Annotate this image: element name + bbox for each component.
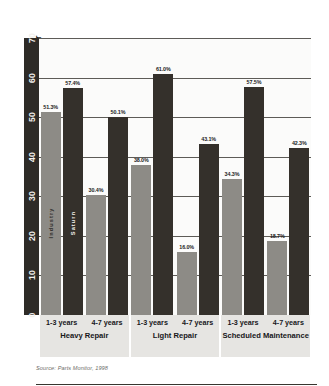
y-axis-tick-10: 10 (25, 268, 39, 283)
y-axis-tick-70: 70 (25, 31, 39, 46)
bar-value-label-industry-0: 51.3% (39, 104, 66, 110)
y-axis-tick-40: 40 (25, 149, 39, 164)
bar-series-container: 51.3%57.4%IndustrySaturn30.4%50.1%38.0%6… (39, 38, 311, 315)
bar-industry-2 (131, 165, 151, 315)
bar-value-label-industry-3: 16.0% (172, 244, 202, 250)
bar-value-label-industry-2: 38.0% (126, 157, 156, 163)
bar-industry-3 (177, 252, 197, 315)
plot-area: 51.3%57.4%IndustrySaturn30.4%50.1%38.0%6… (39, 38, 311, 315)
group-label-1: Light Repair (130, 330, 221, 354)
source-note: Source: Parts Monitor, 1998 (36, 365, 108, 371)
period-label-1-0: 1-3 years (130, 317, 175, 328)
bar-value-label-saturn-3: 43.1% (194, 136, 224, 142)
top-caption (47, 1, 137, 7)
y-axis-tick-0: 0 (25, 308, 39, 323)
bar-saturn-5 (289, 148, 309, 315)
bar-value-label-saturn-4: 57.5% (239, 79, 269, 85)
group-label-0: Heavy Repair (39, 330, 130, 354)
y-axis-tick-50: 50 (25, 110, 39, 125)
period-label-1-1: 4-7 years (175, 317, 220, 328)
series-label-saturn: Saturn (70, 193, 76, 253)
period-label-0-0: 1-3 years (39, 317, 84, 328)
bar-saturn-1 (108, 117, 128, 315)
bar-value-label-industry-5: 18.7% (262, 233, 292, 239)
bar-value-label-saturn-0: 57.4% (58, 80, 88, 86)
bar-value-label-industry-1: 30.4% (81, 187, 111, 193)
period-label-0-1: 4-7 years (84, 317, 129, 328)
bar-value-label-industry-4: 34.3% (217, 171, 247, 177)
bar-value-label-saturn-5: 42.3% (284, 140, 311, 146)
y-axis-band: 010203040506070 (24, 38, 39, 315)
y-axis-tick-60: 60 (25, 70, 39, 85)
bar-industry-5 (267, 241, 287, 315)
series-label-industry: Industry (48, 193, 54, 253)
bar-value-label-saturn-1: 50.1% (103, 109, 133, 115)
bar-saturn-2 (153, 74, 173, 315)
bar-value-label-saturn-2: 61.0% (148, 66, 178, 72)
bar-saturn-3 (199, 144, 219, 315)
period-label-2-1: 4-7 years (266, 317, 311, 328)
bar-industry-1 (86, 195, 106, 315)
group-label-2: Scheduled Maintenance (220, 330, 311, 354)
y-axis-tick-20: 20 (25, 228, 39, 243)
chart-figure: Percentage of Respondents Returning to R… (0, 12, 329, 357)
bottom-rule (36, 384, 317, 385)
category-axis: 1-3 years4-7 yearsHeavy Repair1-3 years4… (39, 315, 311, 357)
y-axis-tick-30: 30 (25, 189, 39, 204)
bar-industry-4 (222, 179, 242, 315)
period-label-2-0: 1-3 years (220, 317, 265, 328)
bar-saturn-4 (244, 87, 264, 315)
